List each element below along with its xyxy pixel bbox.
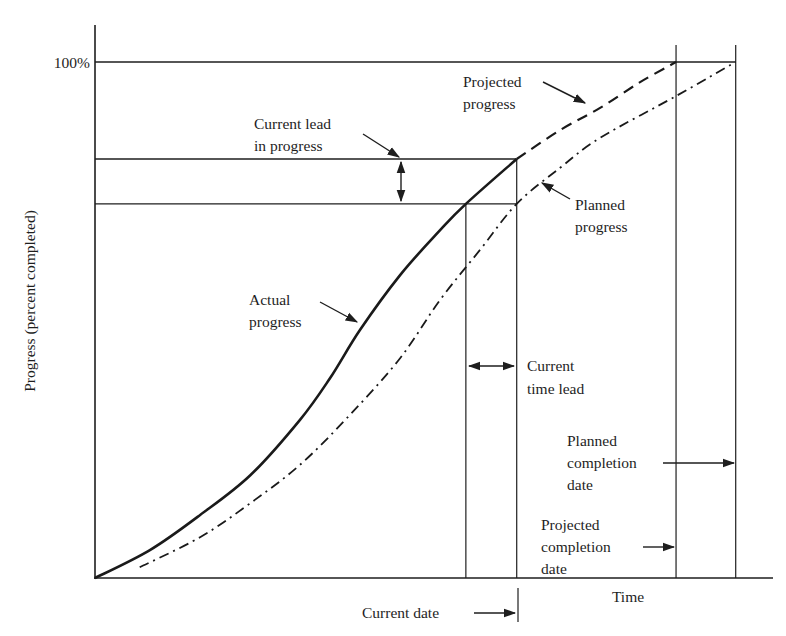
y-axis-label: Progress (percent completed)	[21, 210, 39, 392]
projected-completion-label-line1: Projected	[541, 516, 600, 533]
progress-chart: 100% Progress (percent completed) Time P…	[0, 0, 786, 636]
projected-progress-curve	[517, 62, 676, 159]
projected-progress-arrow	[543, 82, 585, 103]
planned-progress-label-line1: Planned	[575, 196, 625, 213]
actual-progress-label-line1: Actual	[249, 291, 290, 308]
actual-progress-arrow	[320, 302, 357, 322]
planned-progress-label-line2: progress	[575, 218, 628, 235]
planned-progress-arrow	[542, 183, 570, 199]
projected-completion-label-line2: completion	[541, 538, 611, 555]
planned-completion-label-line2: completion	[567, 454, 637, 471]
projected-progress-label-line2: progress	[463, 95, 516, 112]
projected-progress-label-line1: Projected	[463, 73, 522, 90]
projected-completion-label-line3: date	[541, 560, 567, 577]
planned-completion-label-line1: Planned	[567, 432, 617, 449]
current-date-label: Current date	[362, 604, 439, 621]
x-axis-label: Time	[612, 588, 644, 605]
current-time-lead-label-line2: time lead	[527, 380, 584, 397]
reference-lines	[95, 45, 736, 578]
y-tick-label-100: 100%	[54, 54, 90, 71]
actual-progress-curve	[95, 159, 517, 578]
planned-completion-label-line3: date	[567, 476, 593, 493]
actual-progress-label-line2: progress	[249, 313, 302, 330]
current-lead-label-line2: in progress	[254, 137, 322, 154]
planned-progress-curve	[140, 62, 736, 567]
current-time-lead-label-line1: Current	[527, 357, 575, 374]
current-lead-pointer-arrow	[363, 134, 399, 157]
curves	[95, 62, 736, 578]
current-lead-label-line1: Current lead	[254, 115, 331, 132]
